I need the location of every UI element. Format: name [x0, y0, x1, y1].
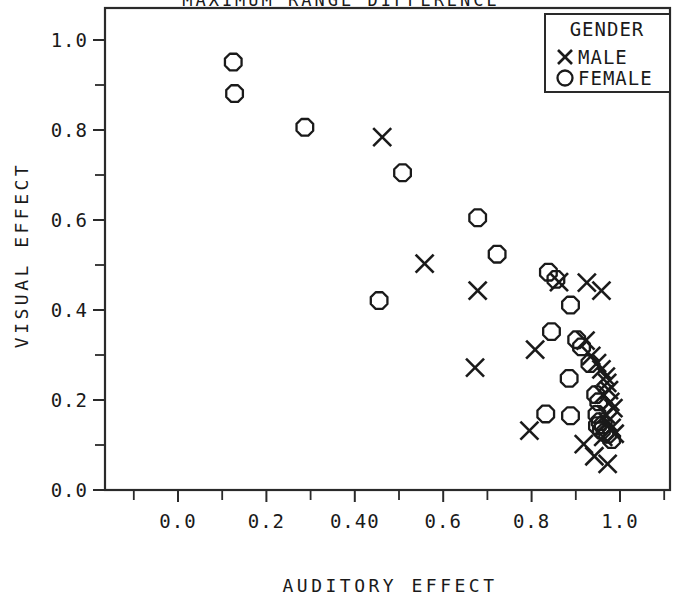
data-point-female	[469, 209, 486, 226]
data-point-female	[562, 407, 579, 424]
data-point-female	[543, 323, 560, 340]
legend: GENDER MALE FEMALE	[545, 14, 670, 92]
legend-label-male: MALE	[578, 46, 628, 68]
legend-label-female: FEMALE	[578, 67, 653, 89]
y-axis-title: VISUAL EFFECT	[11, 162, 32, 348]
data-point-female	[297, 119, 314, 136]
data-point-female	[226, 85, 243, 102]
y-tick-label: 0.8	[51, 119, 88, 141]
x-tick-label: 0.40	[330, 510, 380, 532]
y-tick-label: 0.4	[51, 299, 88, 321]
data-point-female	[562, 297, 579, 314]
data-series-male	[373, 128, 623, 473]
data-point-male	[373, 128, 391, 146]
x-axis-ticks	[134, 490, 664, 502]
data-point-male	[520, 422, 538, 440]
data-point-male	[526, 341, 544, 359]
y-axis-tick-labels: 0.00.20.40.60.81.0	[51, 29, 88, 501]
data-point-female	[394, 164, 411, 181]
data-point-female	[225, 54, 242, 71]
data-point-female	[489, 246, 506, 263]
x-tick-label: 0.0	[159, 510, 196, 532]
data-point-male	[466, 359, 484, 377]
data-point-female	[371, 292, 388, 309]
data-point-male	[416, 255, 434, 273]
scatter-plot-figure: MAXIMUM RANGE DIFFERENCE 0.00.20.400.60.…	[0, 0, 683, 613]
data-point-female	[537, 406, 554, 423]
x-tick-label: 0.8	[513, 510, 550, 532]
x-axis-tick-labels: 0.00.20.400.60.81.0	[159, 510, 638, 532]
y-axis-ticks	[93, 40, 105, 490]
y-tick-label: 1.0	[51, 29, 88, 51]
y-tick-label: 0.0	[51, 479, 88, 501]
y-tick-label: 0.2	[51, 389, 88, 411]
data-point-male	[601, 393, 619, 411]
plot-canvas: MAXIMUM RANGE DIFFERENCE 0.00.20.400.60.…	[0, 0, 683, 613]
legend-title: GENDER	[570, 18, 645, 40]
x-axis-title: AUDITORY EFFECT	[282, 575, 497, 596]
x-tick-label: 0.2	[248, 510, 285, 532]
x-tick-label: 0.6	[425, 510, 462, 532]
x-tick-label: 1.0	[601, 510, 638, 532]
data-point-male	[577, 332, 595, 350]
data-point-male	[469, 282, 487, 300]
y-tick-label: 0.6	[51, 209, 88, 231]
data-series-female	[225, 54, 620, 448]
data-point-female	[561, 370, 578, 387]
